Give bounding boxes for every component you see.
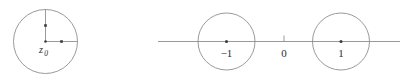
radius-midpoint-marker-right [60,40,63,43]
label-z0-subscript: 0 [44,49,48,58]
figure-container: z 0 −1 0 1 [0,0,413,82]
axis-label-minus-one: −1 [221,47,233,59]
center-point-one [340,40,343,43]
axis-label-zero: 0 [281,47,287,59]
axis-label-one: 1 [338,47,344,59]
label-z0-base: z [38,44,43,55]
figure-canvas: z 0 −1 0 1 [0,0,413,82]
radius-midpoint-marker-up [44,24,47,27]
left-panel-disk-about-z0: z 0 [14,10,78,74]
center-point-z0 [44,40,47,43]
center-point-minus-one [225,40,228,43]
right-panel-unit-disks: −1 0 1 [158,13,400,70]
